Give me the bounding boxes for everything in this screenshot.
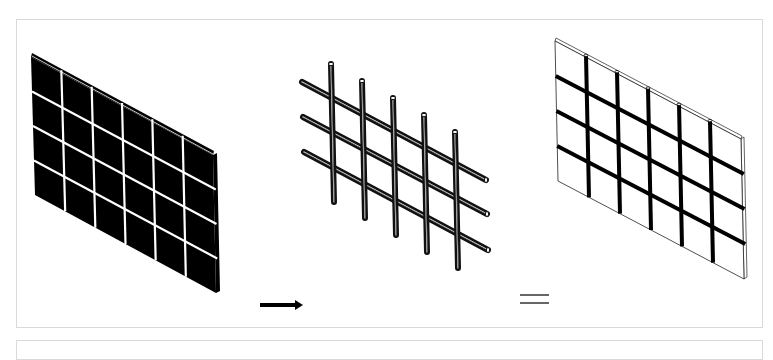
- arrow-right-icon: [260, 300, 303, 310]
- tiled-slab-panel: [31, 53, 220, 293]
- rod-mesh-panel: [302, 62, 490, 268]
- equals-sign-icon: [520, 295, 549, 303]
- reinforced-slab-panel: [555, 38, 747, 279]
